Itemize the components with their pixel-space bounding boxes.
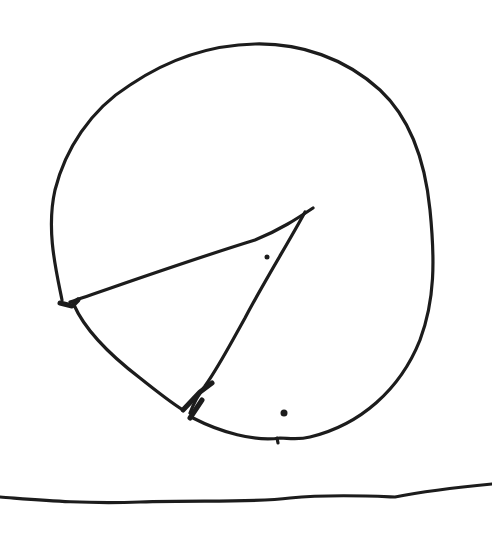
dot-upper [265, 255, 270, 260]
wedge-upper-edge [70, 208, 313, 302]
lower-left-arc [74, 305, 183, 410]
ground-line [0, 484, 492, 503]
dot-lower [281, 410, 288, 417]
wedge-notch [183, 383, 212, 418]
sketch-canvas [0, 0, 492, 552]
outer-arc [51, 44, 433, 439]
bottom-tick [277, 438, 278, 443]
pie-sketch-drawing [0, 0, 492, 552]
